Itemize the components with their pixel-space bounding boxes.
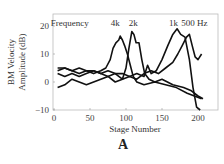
- y-axis-label-line2: Amplitude (dB): [17, 33, 27, 90]
- y-tick-label: 0: [45, 77, 50, 87]
- x-axis-label: Stage Number: [109, 124, 161, 134]
- y-tick-label: −10: [35, 105, 50, 115]
- y-axis-ticks: −1001020: [35, 21, 55, 115]
- y-axis-label-line1: BM Velocity: [6, 38, 16, 85]
- x-tick-label: 0: [52, 113, 57, 123]
- annotation-label: 2k: [129, 18, 139, 28]
- x-tick-label: 150: [155, 113, 169, 123]
- annotation-label: 4k: [111, 18, 121, 28]
- y-tick-label: 10: [40, 49, 50, 59]
- line-chart: −1001020 050100150200 Frequency4k2k1k500…: [0, 0, 224, 164]
- annotation-label: Frequency: [51, 18, 89, 28]
- x-tick-label: 200: [191, 113, 205, 123]
- x-tick-label: 100: [119, 113, 133, 123]
- annotations: Frequency4k2k1k500 Hz: [51, 18, 208, 28]
- annotation-label: 1k: [169, 18, 179, 28]
- data-series: [58, 29, 203, 110]
- x-tick-label: 50: [86, 113, 96, 123]
- annotation-label: 500 Hz: [181, 18, 207, 28]
- panel-label: A: [118, 137, 128, 153]
- series-line-1k: [58, 29, 201, 110]
- y-tick-label: 20: [40, 21, 50, 31]
